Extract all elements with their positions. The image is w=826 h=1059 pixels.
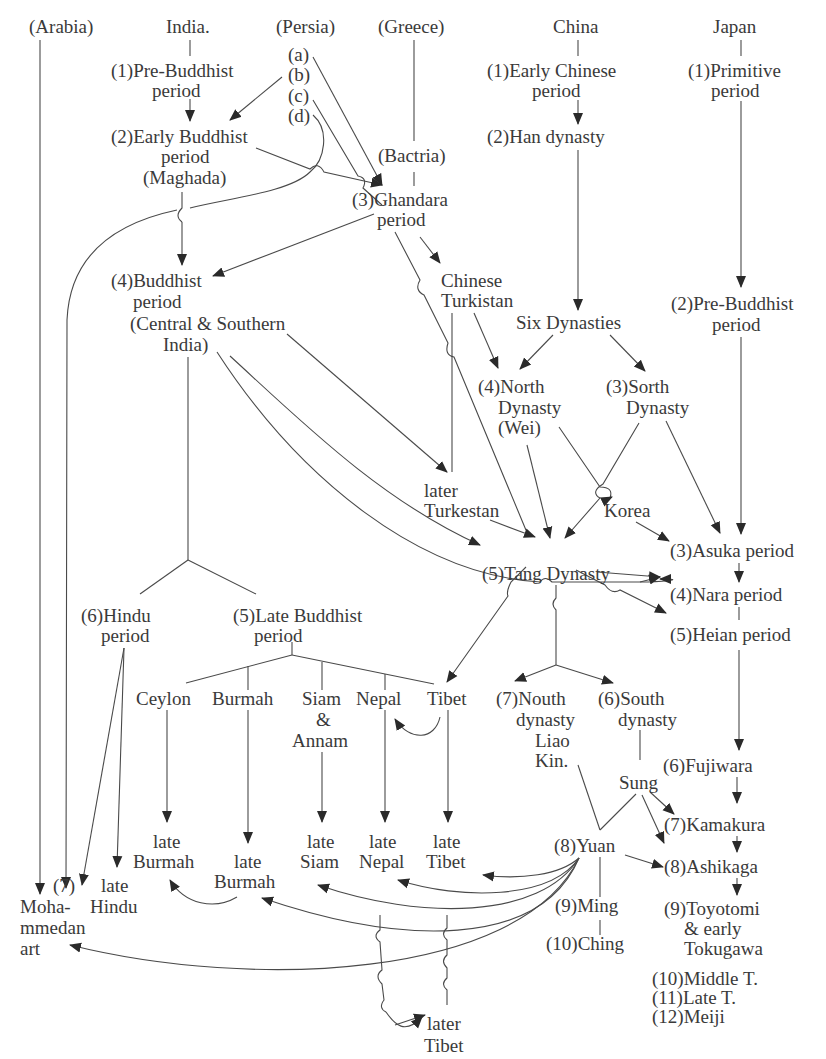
china-han: (2)Han dynasty <box>487 126 605 148</box>
edge-lb-ceylon <box>186 655 292 683</box>
japan-toyotomi: & early <box>684 918 742 939</box>
column-japan: Japan <box>713 16 757 37</box>
edge-persia-a-ghandara <box>313 57 382 185</box>
edge-late-nepal-later-tibet <box>386 1012 422 1027</box>
branch-tibet: Tibet <box>427 688 467 709</box>
china-tang: (5)Tang Dynasty <box>482 563 610 585</box>
india-p5-late-buddhist: (5)Late Buddhist <box>233 605 363 627</box>
china-sung: Sung <box>619 772 659 793</box>
china-sorth: Dynasty <box>626 397 690 418</box>
late-hindu: late <box>101 875 128 896</box>
india-p7-mohammedan: (7) <box>53 875 75 897</box>
edge-split-nouth <box>515 665 556 681</box>
persia-d: (d) <box>288 105 310 127</box>
late-nepal: Nepal <box>359 851 404 872</box>
edge-p4-later-turkestan <box>287 334 447 472</box>
late-burmah-1: late <box>153 831 180 852</box>
later-turkestan: Turkestan <box>424 500 500 521</box>
edge-yuan-late-tibet <box>483 858 579 877</box>
edges <box>40 40 741 1027</box>
edge-tang-split <box>553 585 556 665</box>
central-asia-chinese-turkistan: Turkistan <box>441 290 514 311</box>
bactria: (Bactria) <box>378 145 446 167</box>
japan-fujiwara: (6)Fujiwara <box>663 755 753 777</box>
india-p5-late-buddhist: period <box>254 625 303 646</box>
edge-turkistan-north <box>474 313 498 368</box>
edge-persia-b-p2 <box>230 77 282 120</box>
china-nouth: (7)Nouth <box>496 688 566 710</box>
china-yuan: (8)Yuan <box>554 835 616 857</box>
india-p2: period <box>161 146 210 167</box>
india-p4: period <box>133 291 182 312</box>
edge-split-hindu <box>140 560 188 594</box>
edge-p2-p4-a <box>178 192 182 222</box>
later-tibet: Tibet <box>424 1035 464 1056</box>
late-burmah-1: Burmah <box>133 851 195 872</box>
china-north: Dynasty <box>498 397 562 418</box>
china-nouth: dynasty <box>516 709 576 730</box>
branch-siam: Annam <box>292 730 348 751</box>
japan-p1: (1)Primitive <box>688 60 781 82</box>
edge-tibet-nepal <box>395 717 440 735</box>
india-p4: (Central & Southern <box>130 313 286 335</box>
column-india: India. <box>166 16 210 37</box>
china-ching: (10)Ching <box>546 933 625 955</box>
later-tibet: later <box>427 1013 461 1034</box>
edge-six-north <box>520 335 553 369</box>
branch-ceylon: Ceylon <box>136 688 191 709</box>
india-p7-mohammedan: mmedan <box>20 917 86 938</box>
late-burmah-2: late <box>234 851 261 872</box>
japan-ashikaga: (8)Ashikaga <box>664 856 758 878</box>
edge-split-south <box>556 665 613 683</box>
persia-b: (b) <box>288 64 310 86</box>
branch-nepal: Nepal <box>356 688 401 709</box>
later-turkestan: later <box>424 480 458 501</box>
late-siam: late <box>307 831 334 852</box>
edge-korea-asuka <box>636 522 669 541</box>
late-hindu: Hindu <box>90 896 138 917</box>
late-nepal: late <box>369 831 396 852</box>
edge-sung-yuan <box>600 794 636 830</box>
india-p4: India) <box>163 334 208 356</box>
korea: Korea <box>604 500 651 521</box>
labels: (Arabia) India. (Persia) (Greece) China … <box>20 16 794 1056</box>
edge-p2-ghandara <box>256 148 382 185</box>
edge-yuan-mohammedan <box>70 858 579 970</box>
china-six-dynasties: Six Dynasties <box>516 312 621 333</box>
japan-kamakura: (7)Kamakura <box>664 814 766 836</box>
column-arabia: (Arabia) <box>29 16 93 38</box>
india-p7-mohammedan: art <box>20 938 41 959</box>
china-south: dynasty <box>618 709 678 730</box>
central-asia-chinese-turkistan: Chinese <box>441 270 502 291</box>
japan-asuka: (3)Asuka period <box>670 540 794 562</box>
edge-sorth-asuka <box>666 421 720 533</box>
column-persia: (Persia) <box>276 16 335 38</box>
japan-heian: (5)Heian period <box>670 624 791 646</box>
edge-tang-tibet <box>447 567 526 682</box>
india-p4: (4)Buddhist <box>111 270 203 292</box>
edge-later-turkestan-tang <box>490 520 535 537</box>
column-china: China <box>553 16 599 37</box>
late-siam: Siam <box>300 851 339 872</box>
late-tibet: Tibet <box>426 851 466 872</box>
late-burmah-2: Burmah <box>214 871 276 892</box>
late-tibet: late <box>433 831 460 852</box>
china-nouth: Liao <box>535 730 570 751</box>
india-p2: (Maghada) <box>143 167 226 189</box>
china-p1: period <box>532 80 581 101</box>
china-north: (Wei) <box>498 417 541 439</box>
edge-six-sorth <box>610 335 645 371</box>
india-p2: (2)Early Buddhist <box>111 126 248 148</box>
edge-sung-kamakura <box>650 792 674 814</box>
china-sorth: (3)Sorth <box>606 376 670 398</box>
edge-ghandara-turkistan <box>420 237 440 263</box>
india-p3: period <box>377 209 426 230</box>
china-north: (4)North <box>478 376 545 398</box>
edge-kin-yuan <box>578 765 600 830</box>
branch-burmah: Burmah <box>212 688 274 709</box>
edge-ghandara-p4 <box>213 214 374 276</box>
japan-meiji: (12)Meiji <box>652 1006 725 1028</box>
china-south: (6)South <box>598 688 665 710</box>
edge-yuan-ashikaga <box>625 855 663 867</box>
edge-split-late-buddhist <box>188 560 256 594</box>
